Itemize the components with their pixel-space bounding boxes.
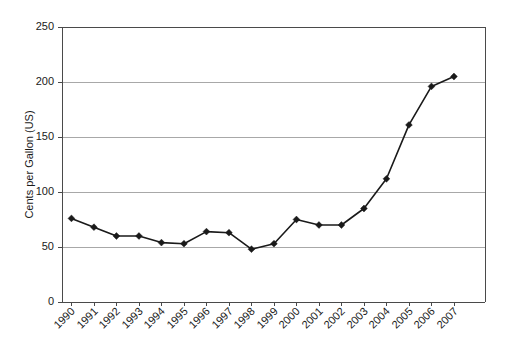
y-tick-label-0: 0	[48, 295, 54, 307]
x-tick-label-1990: 1990	[51, 305, 77, 331]
y-tick-label-50: 50	[42, 240, 54, 252]
x-tick-label-1991: 1991	[74, 305, 100, 331]
y-tick-label-200: 200	[36, 75, 54, 87]
x-tick-label-2004: 2004	[366, 305, 392, 331]
data-point-1994	[158, 239, 165, 246]
x-tick-label-2003: 2003	[344, 305, 370, 331]
x-tick-label-1999: 1999	[254, 305, 280, 331]
y-axis-title-text: Cents per Gallon (US)	[23, 110, 35, 218]
line-chart: 050100150200250 199019911992199319941995…	[0, 0, 508, 346]
x-tick-label-2001: 2001	[299, 305, 325, 331]
x-tick-label-2007: 2007	[434, 305, 460, 331]
data-point-1995	[181, 240, 188, 247]
data-point-1991	[91, 224, 98, 231]
gridlines	[62, 28, 485, 248]
y-tick-label-100: 100	[36, 185, 54, 197]
data-series	[68, 73, 457, 253]
data-point-1992	[113, 233, 120, 240]
x-axis-ticks: 1990199119921993199419951996199719981999…	[51, 302, 460, 331]
y-axis-title: Cents per Gallon (US)	[23, 110, 35, 218]
x-tick-label-1993: 1993	[119, 305, 145, 331]
data-point-2005	[406, 122, 413, 129]
series-line-path	[71, 77, 454, 250]
x-tick-label-1994: 1994	[141, 305, 167, 331]
x-tick-label-1992: 1992	[96, 305, 122, 331]
y-tick-label-250: 250	[36, 20, 54, 32]
data-point-2007	[451, 73, 458, 80]
x-tick-label-2005: 2005	[389, 305, 415, 331]
data-point-1990	[68, 215, 75, 222]
x-tick-label-1996: 1996	[186, 305, 212, 331]
x-tick-label-1997: 1997	[209, 305, 235, 331]
x-tick-label-2006: 2006	[411, 305, 437, 331]
data-point-1996	[203, 228, 210, 235]
data-point-2001	[316, 222, 323, 229]
x-tick-label-2000: 2000	[276, 305, 302, 331]
chart-container: 050100150200250 199019911992199319941995…	[0, 0, 508, 346]
data-point-2006	[428, 83, 435, 90]
axes	[62, 27, 486, 303]
x-tick-label-1998: 1998	[231, 305, 257, 331]
x-tick-label-1995: 1995	[164, 305, 190, 331]
y-axis-ticks: 050100150200250	[36, 20, 62, 307]
x-tick-label-2002: 2002	[321, 305, 347, 331]
y-tick-label-150: 150	[36, 130, 54, 142]
data-point-1993	[136, 233, 143, 240]
